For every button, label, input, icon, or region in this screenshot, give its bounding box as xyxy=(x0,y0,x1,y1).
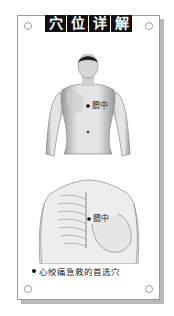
caption: 心绞痛急救的首选穴 xyxy=(32,265,120,277)
front-body-illustration: 膻中 xyxy=(40,54,136,164)
title-char: 解 xyxy=(111,15,132,32)
bullet-icon xyxy=(32,269,36,273)
card-title: 穴 位 详 解 xyxy=(45,15,132,32)
acupoint-label-chest: 膻中 xyxy=(93,214,109,223)
chest-illustration: 膻中 xyxy=(30,174,148,264)
title-char: 穴 xyxy=(45,15,66,32)
acupoint-card: 穴 位 详 解 xyxy=(17,15,160,300)
corner-ring-icon xyxy=(145,22,153,30)
chest-ribcage-icon xyxy=(30,174,148,264)
caption-text: 心绞痛急救的首选穴 xyxy=(39,265,120,277)
acupoint-label-front: 膻中 xyxy=(92,101,108,110)
title-char: 位 xyxy=(67,15,88,32)
corner-ring-icon xyxy=(24,22,32,30)
corner-ring-icon xyxy=(145,285,153,293)
male-torso-icon xyxy=(40,54,136,164)
title-char: 详 xyxy=(89,15,110,32)
corner-ring-icon xyxy=(24,285,32,293)
